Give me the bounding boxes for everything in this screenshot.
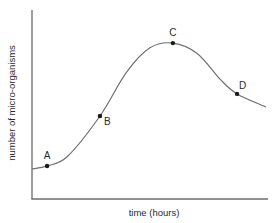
growth-curve-chart: ABCD time (hours) number of micro-organi… bbox=[0, 0, 274, 223]
point-label-d: D bbox=[239, 80, 246, 91]
point-b bbox=[98, 114, 102, 118]
points-layer: ABCD bbox=[44, 27, 247, 168]
point-label-b: B bbox=[104, 116, 111, 127]
x-axis-label: time (hours) bbox=[129, 207, 180, 218]
point-label-c: C bbox=[169, 27, 176, 38]
point-label-a: A bbox=[44, 150, 51, 161]
point-a bbox=[45, 164, 49, 168]
point-c bbox=[171, 41, 175, 45]
growth-curve-line bbox=[32, 43, 266, 169]
y-axis-label: number of micro-organisms bbox=[6, 45, 17, 161]
point-d bbox=[235, 92, 239, 96]
